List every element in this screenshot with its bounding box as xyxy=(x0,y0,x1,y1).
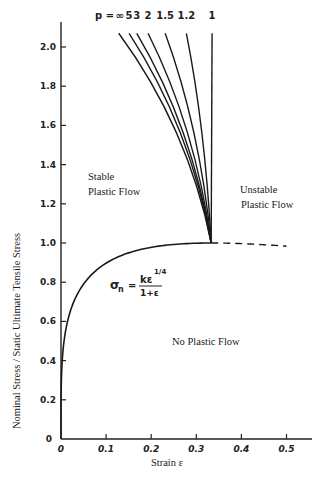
p-prefix-label: p = xyxy=(95,10,114,21)
x-tick-label: 0.3 xyxy=(188,444,204,454)
formula-denominator: 1+ε xyxy=(140,288,159,298)
p-labels: p = ∞5321.51.21 xyxy=(95,10,216,21)
curves xyxy=(61,33,287,439)
y-tick-label: 0 xyxy=(46,434,52,444)
p-label: 2 xyxy=(145,10,152,21)
y-ticks: 00.20.40.60.81.01.21.41.61.82.0 xyxy=(40,42,66,444)
y-tick-label: 1.0 xyxy=(40,238,56,248)
y-tick-label: 0.2 xyxy=(40,395,56,405)
x-axis-label: Strain ε xyxy=(151,457,184,468)
p-label: ∞ xyxy=(116,10,124,21)
stable-label-line1: Stable xyxy=(88,171,115,182)
p-label: 3 xyxy=(133,10,140,21)
stable-label-line2: Plastic Flow xyxy=(88,186,141,197)
axes: 00.20.40.60.81.01.21.41.61.82.0 00.10.20… xyxy=(40,22,312,454)
y-tick-label: 0.8 xyxy=(40,277,56,287)
p-label: 1.2 xyxy=(178,10,196,21)
y-tick-label: 1.6 xyxy=(40,120,56,130)
y-tick-label: 1.4 xyxy=(40,160,56,170)
x-tick-label: 0.1 xyxy=(98,444,114,454)
x-tick-label: 0.4 xyxy=(233,444,249,454)
x-tick-label: 0 xyxy=(58,444,64,454)
p-curve xyxy=(148,33,211,243)
p-curve xyxy=(119,33,211,243)
x-tick-label: 0.5 xyxy=(279,444,295,454)
main-curve-dashed xyxy=(211,243,286,246)
y-tick-label: 1.8 xyxy=(40,81,56,91)
no-plastic-flow-label: No Plastic Flow xyxy=(172,336,240,347)
unstable-label-line2: Plastic Flow xyxy=(241,199,294,210)
formula-exponent: 1/4 xyxy=(154,268,166,276)
p-label: 5 xyxy=(126,10,133,21)
formula-equals: = xyxy=(128,280,136,291)
p-label: 1.5 xyxy=(156,10,174,21)
unstable-label-line1: Unstable xyxy=(240,184,278,195)
y-tick-label: 1.2 xyxy=(40,199,56,209)
p-curve xyxy=(211,33,212,243)
p-curve xyxy=(129,33,211,243)
y-tick-label: 2.0 xyxy=(40,42,56,52)
p-label: 1 xyxy=(209,10,216,21)
y-tick-label: 0.6 xyxy=(40,316,56,326)
y-axis-label: Nominal Stress / Static Ultimate Tensile… xyxy=(11,233,22,429)
stress-strain-chart: 00.20.40.60.81.01.21.41.61.82.0 00.10.20… xyxy=(0,0,328,487)
formula: σ n = kε 1/4 1+ε xyxy=(110,268,166,298)
p-curves xyxy=(119,33,212,243)
x-tick-label: 0.2 xyxy=(143,444,159,454)
formula-subscript: n xyxy=(118,285,124,294)
x-ticks: 00.10.20.30.40.5 xyxy=(58,434,295,454)
y-tick-label: 0.4 xyxy=(40,356,56,366)
formula-numerator: kε xyxy=(140,274,152,285)
